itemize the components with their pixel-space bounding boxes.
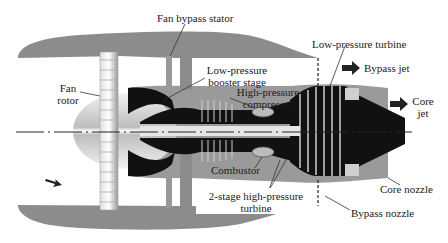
label-bypass-nozzle: Bypass nozzle xyxy=(351,207,414,219)
upper-nacelle xyxy=(18,31,318,58)
label-hp-turbine-line2: turbine xyxy=(198,202,314,214)
pylon-upper xyxy=(180,56,192,90)
label-bypass-jet: Bypass jet xyxy=(364,62,410,74)
pylon-lower xyxy=(180,150,192,208)
core-jet-arrow xyxy=(390,97,408,111)
label-core-jet-line2: jet xyxy=(410,107,436,119)
label-lp-booster-line1: Low-pressure xyxy=(202,64,272,76)
label-core-jet: Core jet xyxy=(410,95,436,119)
bypass-jet-arrow xyxy=(342,61,360,75)
fan-bypass-stator-upper xyxy=(166,56,172,90)
label-combustor: Combustor xyxy=(211,164,260,176)
label-core-jet-line1: Core xyxy=(410,95,436,107)
label-lp-booster: Low-pressure booster stage xyxy=(202,64,272,88)
label-fan-rotor-line2: rotor xyxy=(54,94,82,106)
label-hp-compressor-line2: compressor xyxy=(232,98,304,110)
core-nozzle-upper-liner xyxy=(345,88,359,100)
fan-bypass-stator-lower xyxy=(166,176,172,208)
label-fan-bypass-stator: Fan bypass stator xyxy=(157,12,233,24)
shaft xyxy=(140,126,300,136)
core-nozzle-lower-liner xyxy=(345,164,359,176)
inflow-arrow xyxy=(45,179,62,187)
label-fan-rotor-line1: Fan xyxy=(54,82,82,94)
label-hp-compressor-line1: High-pressure xyxy=(232,86,304,98)
fan-rotor xyxy=(100,52,118,210)
label-fan-rotor: Fan rotor xyxy=(54,82,82,106)
label-lp-turbine: Low-pressure turbine xyxy=(312,38,406,50)
combustor-lower xyxy=(252,147,274,157)
label-core-nozzle: Core nozzle xyxy=(380,183,433,195)
label-hp-turbine: 2-stage high-pressure turbine xyxy=(198,190,314,214)
label-hp-compressor: High-pressure compressor xyxy=(232,86,304,110)
label-hp-turbine-line1: 2-stage high-pressure xyxy=(198,190,314,202)
